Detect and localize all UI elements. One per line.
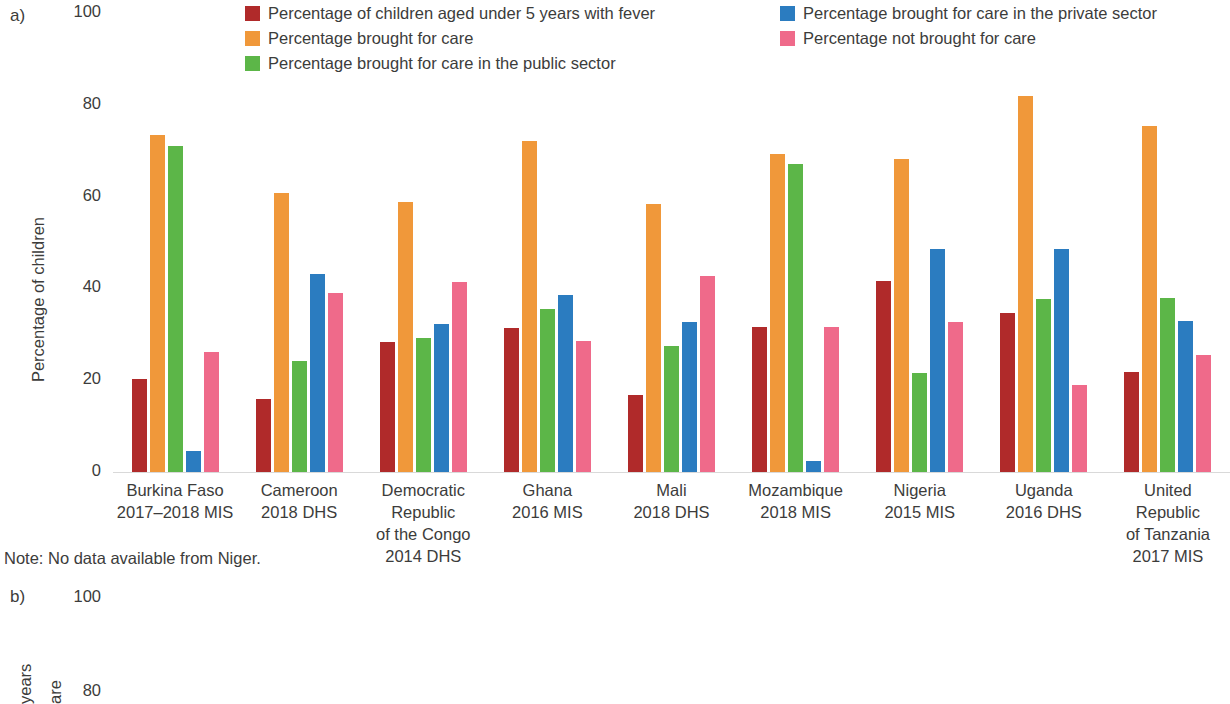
bar-group (1106, 13, 1230, 472)
y-axis-tick-40: 40 (55, 277, 101, 296)
x-axis-baseline (113, 472, 1230, 473)
bar (204, 352, 219, 472)
x-axis-labels: Burkina Faso2017–2018 MISCameroon2018 DH… (113, 479, 1230, 567)
x-axis-label-line: Ghana (485, 479, 609, 501)
x-axis-label-line: 2018 DHS (609, 501, 733, 523)
bar (150, 135, 165, 472)
bar (1178, 321, 1193, 472)
y-axis-tick-60: 60 (55, 186, 101, 205)
bar (930, 249, 945, 472)
bar (380, 342, 395, 472)
bar (752, 327, 767, 472)
x-axis-label: Uganda2016 DHS (982, 479, 1106, 567)
bar (540, 309, 555, 472)
y-axis-tick-100: 100 (55, 2, 101, 21)
bar (1124, 372, 1139, 472)
x-axis-label-line: 2016 DHS (982, 501, 1106, 523)
bar (646, 204, 661, 472)
chart-note: Note: No data available from Niger. (4, 549, 261, 568)
x-axis-label-line: 2015 MIS (858, 501, 982, 523)
bar (1072, 385, 1087, 472)
x-axis-label-line: Cameroon (237, 479, 361, 501)
bar (1054, 249, 1069, 472)
x-axis-label: Nigeria2015 MIS (858, 479, 982, 567)
bar-group (858, 13, 982, 472)
bar (132, 379, 147, 472)
bar-group (361, 13, 485, 472)
bar (1018, 96, 1033, 472)
bar (1000, 313, 1015, 472)
bar (700, 276, 715, 472)
x-axis-label-line: United (1106, 479, 1230, 501)
bar-groups (113, 13, 1230, 472)
x-axis-label-line: Nigeria (858, 479, 982, 501)
x-axis-label-line: 2017 MIS (1106, 545, 1230, 567)
bar (1036, 299, 1051, 473)
bar (452, 282, 467, 472)
x-axis-label-line: Republic (361, 501, 485, 523)
bar-group (609, 13, 733, 472)
panel-a-letter: a) (10, 6, 25, 26)
bar (876, 281, 891, 472)
y-axis-tick-80: 80 (55, 94, 101, 113)
x-axis-label: DemocraticRepublicof the Congo2014 DHS (361, 479, 485, 567)
bar (292, 361, 307, 472)
panel-b-axis-word-are: are (46, 680, 65, 704)
bar (186, 451, 201, 472)
bar-group (485, 13, 609, 472)
x-axis-label-line: Mozambique (734, 479, 858, 501)
x-axis-label: Mozambique2018 MIS (734, 479, 858, 567)
bar (682, 322, 697, 472)
panel-b-chart: b) 100 80 years are (0, 585, 1230, 704)
bar (328, 293, 343, 472)
x-axis-label-line: 2017–2018 MIS (113, 501, 237, 523)
bar-group (982, 13, 1106, 472)
x-axis-label: Ghana2016 MIS (485, 479, 609, 567)
bar (664, 346, 679, 472)
bar-group (113, 13, 237, 472)
bar (310, 274, 325, 472)
x-axis-label-line: 2018 MIS (734, 501, 858, 523)
bar (416, 338, 431, 472)
bar-group (237, 13, 361, 472)
x-axis-label-line: Burkina Faso (113, 479, 237, 501)
x-axis-label-line: Democratic (361, 479, 485, 501)
bar (434, 324, 449, 472)
bar (398, 202, 413, 472)
bar (788, 164, 803, 472)
bar (1142, 126, 1157, 472)
x-axis-label-line: of the Congo (361, 523, 485, 545)
bar-group (734, 13, 858, 472)
panel-b-ytick-100: 100 (55, 587, 101, 606)
panel-b-letter: b) (10, 587, 25, 607)
x-axis-label-line: of Tanzania (1106, 523, 1230, 545)
panel-b-axis-word-years: years (16, 664, 35, 704)
x-axis-label-line: 2016 MIS (485, 501, 609, 523)
bar (824, 327, 839, 472)
bar (522, 141, 537, 472)
bar (168, 146, 183, 472)
panel-a-chart: a) Percentage of children aged under 5 y… (0, 0, 1230, 585)
bar (948, 322, 963, 472)
x-axis-label-line: Mali (609, 479, 733, 501)
bar (1196, 355, 1211, 473)
bar (628, 395, 643, 472)
x-axis-label-line: 2018 DHS (237, 501, 361, 523)
bar (576, 341, 591, 472)
bar (770, 154, 785, 472)
x-axis-label-line: 2014 DHS (361, 545, 485, 567)
x-axis-label: UnitedRepublicof Tanzania2017 MIS (1106, 479, 1230, 567)
x-axis-label-line: Uganda (982, 479, 1106, 501)
bar (504, 328, 519, 472)
x-axis-label-line: Republic (1106, 501, 1230, 523)
bar (558, 295, 573, 472)
bar (274, 193, 289, 472)
bar (256, 399, 271, 472)
y-axis-tick-20: 20 (55, 369, 101, 388)
y-axis-title: Percentage of children (29, 170, 48, 430)
bar (806, 461, 821, 472)
y-axis-tick-0: 0 (55, 461, 101, 480)
bar (894, 159, 909, 472)
bar (1160, 298, 1175, 472)
x-axis-label: Mali2018 DHS (609, 479, 733, 567)
